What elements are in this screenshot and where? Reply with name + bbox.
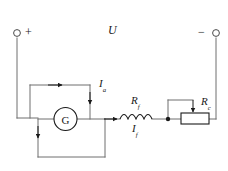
field-coil-inductor-symbol [120, 115, 152, 120]
armature-current-label: Ia [99, 78, 106, 92]
field-resistor-symbol: R [131, 94, 138, 106]
negative-terminal-node[interactable] [213, 30, 220, 37]
circuit-diagram: G + − U Ia Rf If Rc [0, 0, 228, 171]
rheostat-symbol: R [201, 95, 208, 107]
supply-voltage-label: U [108, 24, 117, 36]
galvanometer-letter: G [62, 114, 70, 126]
armature-current-subscript: a [103, 86, 106, 93]
field-resistor-subscript: f [138, 103, 140, 110]
rheostat-label: Rc [201, 96, 211, 110]
positive-terminal-sign: + [25, 26, 32, 38]
positive-terminal-node[interactable] [14, 30, 21, 37]
rheostat-resistor-box [181, 113, 209, 124]
junction-dot-rheostat-tap [166, 117, 170, 121]
field-current-label: If [132, 123, 138, 137]
negative-terminal-sign: − [198, 26, 205, 38]
field-current-subscript: f [136, 131, 138, 138]
rheostat-subscript: c [208, 104, 211, 111]
field-resistor-label: Rf [131, 95, 140, 109]
